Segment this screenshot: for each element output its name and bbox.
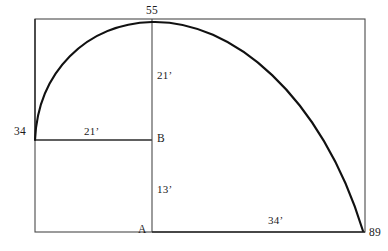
label-node-55: 55: [146, 5, 158, 17]
label-vertex-a: A: [138, 224, 146, 236]
label-dimension-vertical-lower: 13’: [157, 184, 172, 195]
label-dimension-vertical-upper: 21’: [157, 70, 172, 81]
label-dimension-horizontal-upper: 21’: [84, 126, 99, 137]
label-vertex-b: B: [157, 133, 165, 145]
label-node-89: 89: [369, 227, 381, 239]
label-dimension-horizontal-lower: 34’: [268, 215, 283, 226]
geometry-figure: 55 34 89 A B 21’ 13’ 21’ 34’: [0, 0, 388, 251]
label-node-34: 34: [14, 126, 26, 138]
figure-canvas: [0, 0, 388, 251]
